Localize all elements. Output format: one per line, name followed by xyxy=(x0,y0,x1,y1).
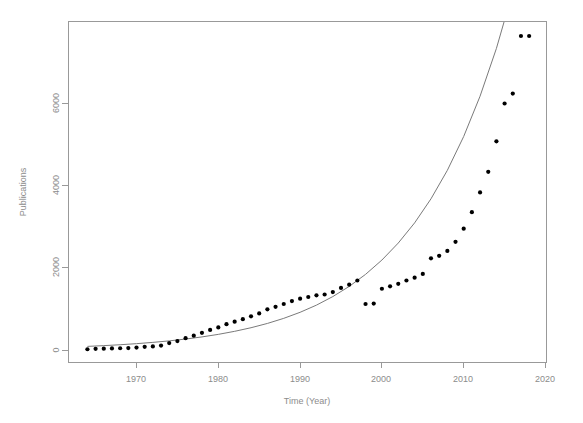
data-point xyxy=(404,278,408,282)
data-point xyxy=(453,240,457,244)
data-point xyxy=(323,292,327,296)
data-point xyxy=(110,346,114,350)
data-point xyxy=(421,272,425,276)
scatter-plot-svg: 0 2000 4000 6000 Publications 1970 1980 … xyxy=(0,0,583,423)
data-point xyxy=(183,336,187,340)
data-point xyxy=(339,286,343,290)
data-point xyxy=(85,347,89,351)
data-point xyxy=(265,307,269,311)
data-point xyxy=(494,139,498,143)
data-point xyxy=(462,227,466,231)
x-tick-label-1970: 1970 xyxy=(126,374,146,384)
data-point xyxy=(470,210,474,214)
y-tick-label-6000: 6000 xyxy=(51,93,61,113)
y-tick-label-0: 0 xyxy=(51,347,61,352)
data-point xyxy=(437,254,441,258)
data-point xyxy=(192,334,196,338)
data-point xyxy=(167,341,171,345)
y-tick-marks xyxy=(62,104,68,351)
data-point xyxy=(126,346,130,350)
data-point xyxy=(282,302,286,306)
chart-figure: 0 2000 4000 6000 Publications 1970 1980 … xyxy=(0,0,583,423)
data-point xyxy=(347,283,351,287)
y-tick-label-2000: 2000 xyxy=(51,257,61,277)
x-tick-label-2010: 2010 xyxy=(453,374,473,384)
plot-frame xyxy=(69,22,547,363)
data-point xyxy=(224,322,228,326)
data-point xyxy=(445,249,449,253)
x-tick-label-2000: 2000 xyxy=(371,374,391,384)
data-point xyxy=(355,278,359,282)
data-point xyxy=(486,170,490,174)
data-point xyxy=(331,290,335,294)
data-point xyxy=(363,302,367,306)
data-point xyxy=(102,347,106,351)
data-point xyxy=(429,256,433,260)
data-point xyxy=(216,325,220,329)
data-point xyxy=(175,339,179,343)
data-point xyxy=(314,293,318,297)
x-tick-labels: 1970 1980 1990 2000 2010 2020 xyxy=(126,374,555,384)
data-point xyxy=(208,328,212,332)
data-point xyxy=(519,34,523,38)
data-point xyxy=(143,345,147,349)
data-point xyxy=(396,282,400,286)
data-point xyxy=(273,305,277,309)
data-point xyxy=(380,287,384,291)
data-point xyxy=(200,331,204,335)
y-tick-labels: 0 2000 4000 6000 xyxy=(51,93,61,353)
y-axis-title: Publications xyxy=(18,167,28,216)
x-tick-label-1990: 1990 xyxy=(290,374,310,384)
data-point xyxy=(233,320,237,324)
data-point xyxy=(372,301,376,305)
data-point xyxy=(306,295,310,299)
x-tick-label-1980: 1980 xyxy=(208,374,228,384)
data-point xyxy=(151,344,155,348)
y-tick-label-4000: 4000 xyxy=(51,175,61,195)
data-point xyxy=(159,343,163,347)
data-point xyxy=(134,346,138,350)
data-point xyxy=(118,346,122,350)
data-point xyxy=(503,101,507,105)
data-point xyxy=(478,190,482,194)
data-point xyxy=(241,317,245,321)
data-point xyxy=(290,299,294,303)
data-point xyxy=(94,347,98,351)
data-point xyxy=(257,311,261,315)
x-tick-label-2020: 2020 xyxy=(535,374,555,384)
data-point xyxy=(249,314,253,318)
x-axis-title: Time (Year) xyxy=(284,396,330,406)
data-point-group xyxy=(85,34,531,351)
data-point xyxy=(527,34,531,38)
data-point xyxy=(298,297,302,301)
data-point xyxy=(413,276,417,280)
exponential-fit-curve xyxy=(87,0,521,346)
data-point xyxy=(511,92,515,96)
data-point xyxy=(388,284,392,288)
